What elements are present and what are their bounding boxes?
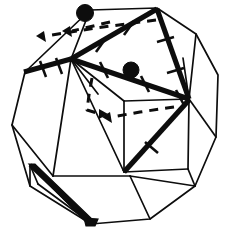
edge-hub-down-left <box>53 59 71 176</box>
edge-inner-square-right <box>188 99 189 169</box>
edge-inner-square-bottom <box>124 169 188 172</box>
vertex-dot-top <box>77 5 94 22</box>
outer-outline-path <box>12 8 218 224</box>
dashed-arrow-top-long <box>46 20 156 36</box>
vertex-dot-middle <box>123 62 139 78</box>
arrowhead-icon <box>36 31 46 42</box>
marked-vertices-group <box>77 5 140 79</box>
wedge-solid-bottom-tip <box>84 218 98 226</box>
figure-container <box>0 0 235 239</box>
wedge-solid-bottom-left <box>29 164 95 224</box>
polyhedron-diagram <box>0 0 235 239</box>
edge-right-upper-connector <box>189 34 196 99</box>
edge-inner-square-top <box>124 99 189 101</box>
edge-bottom-to-lower-right <box>130 176 195 186</box>
edge-bottom-right-run <box>130 176 150 219</box>
edge-inner-square-to-lower-right <box>188 169 195 186</box>
edge-right-corner-connector <box>189 99 216 137</box>
bold-edge-right-descending <box>157 9 189 99</box>
internal-edges-group <box>12 10 216 224</box>
outer-outline-group <box>12 8 218 224</box>
dashed-arrow-inner-right <box>112 107 174 117</box>
